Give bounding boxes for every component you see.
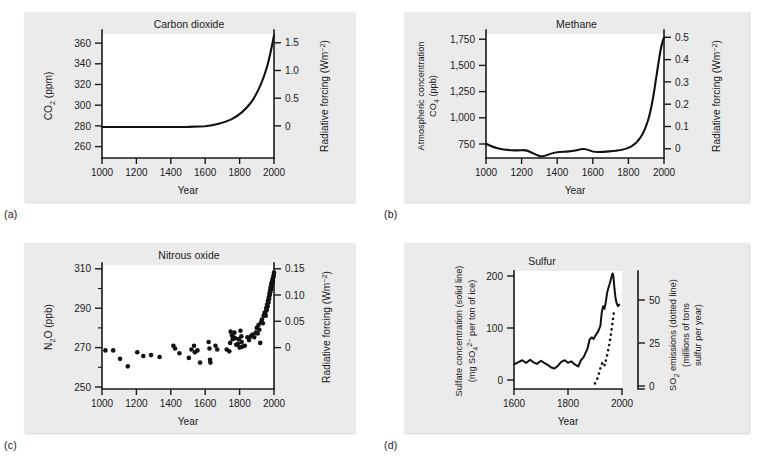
svg-text:1800: 1800 [617, 167, 640, 178]
panel-c-left-tick-labels: 250 270 290 310 [74, 263, 91, 392]
svg-text:Radiative forcing (Wm−2): Radiative forcing (Wm−2) [320, 271, 332, 383]
scatter-point [208, 360, 213, 365]
panel-a-right-ticks [274, 43, 281, 126]
svg-text:1200: 1200 [125, 398, 148, 409]
svg-text:0.5: 0.5 [285, 93, 299, 104]
svg-text:1600: 1600 [503, 398, 526, 409]
panel-b-y-left-title-line2: CO4 (ppb) [428, 75, 441, 117]
svg-text:CO4 (ppb): CO4 (ppb) [428, 75, 441, 117]
panel-b-left-ticks [479, 39, 486, 144]
svg-text:1600: 1600 [582, 167, 605, 178]
panel-c-y-right-title: Radiative forcing (Wm−2) [320, 271, 332, 383]
svg-text:(mg SO42− per ton of ice): (mg SO42− per ton of ice) [465, 280, 480, 383]
svg-text:25: 25 [649, 338, 661, 349]
scatter-point [206, 340, 211, 345]
svg-text:250: 250 [74, 382, 91, 393]
panel-c-tag: (c) [4, 439, 17, 451]
scatter-point [195, 348, 200, 353]
svg-text:0: 0 [285, 342, 291, 353]
panel-c-x-tick-labels: 1000 1200 1400 1600 1800 2000 [91, 398, 286, 409]
svg-text:340: 340 [74, 58, 91, 69]
svg-text:290: 290 [74, 303, 91, 314]
panel-b-x-axis-title: Year [565, 185, 586, 196]
panel-d-y-right-title-line2: (millions of tons [681, 303, 691, 367]
panel-d-y-right-title-line3: sulfur per year) [693, 304, 703, 366]
svg-text:0: 0 [649, 381, 655, 392]
panel-b-left-tick-labels: 750 1,000 1,250 1,500 1,750 [450, 34, 475, 150]
scatter-point [135, 350, 140, 355]
panel-b-x-ticks [486, 158, 664, 164]
svg-text:1000: 1000 [91, 167, 114, 178]
svg-text:2000: 2000 [611, 398, 634, 409]
panel-a-left-ticks [95, 43, 102, 147]
svg-text:2000: 2000 [263, 398, 286, 409]
svg-text:CO2 (ppm): CO2 (ppm) [43, 72, 57, 121]
scatter-point [198, 360, 203, 365]
svg-text:320: 320 [74, 79, 91, 90]
svg-text:(millions of tons: (millions of tons [681, 303, 691, 367]
panel-d-plot: 0 100 200 0 25 50 1600 [404, 243, 749, 433]
panel-b-right-ticks [664, 37, 671, 149]
svg-text:0: 0 [497, 375, 503, 386]
scatter-point [242, 343, 247, 348]
svg-text:1,500: 1,500 [450, 60, 475, 71]
panel-a-x-ticks [102, 158, 274, 164]
panel-d-tag: (d) [384, 439, 397, 451]
panel-c-x-axis-title: Year [178, 416, 199, 427]
svg-text:1,250: 1,250 [450, 86, 475, 97]
svg-text:0.2: 0.2 [675, 99, 689, 110]
svg-text:0: 0 [675, 143, 681, 154]
panel-d-right-tick-labels: 0 25 50 [649, 295, 661, 392]
svg-text:0.05: 0.05 [285, 316, 305, 327]
scatter-point [258, 341, 263, 346]
panel-a-x-tick-labels: 1000 1200 1400 1600 1800 2000 [91, 167, 286, 178]
svg-text:1.0: 1.0 [285, 65, 299, 76]
svg-text:0.1: 0.1 [675, 121, 689, 132]
svg-text:750: 750 [458, 139, 475, 150]
panel-d-left-ticks [507, 276, 514, 380]
scatter-point [261, 321, 266, 326]
scatter-point [238, 328, 243, 333]
scatter-point [239, 340, 244, 345]
scatter-point [207, 346, 212, 351]
scatter-point [192, 343, 197, 348]
svg-text:Atmospheric concentration: Atmospheric concentration [416, 42, 426, 151]
scatter-point [187, 356, 192, 361]
svg-text:2000: 2000 [263, 167, 286, 178]
panel-a-plot: 260 280 300 320 340 360 0 0.5 1.0 1.5 [24, 12, 354, 202]
scatter-point [141, 354, 146, 359]
panel-d-y-left-title-line1: Sulfate concentration (solid line) [454, 266, 464, 397]
svg-text:Radiative forcing (Wm−2): Radiative forcing (Wm−2) [710, 40, 722, 152]
panel-sulfur: Sulfur 0 100 200 [404, 243, 749, 433]
svg-text:200: 200 [486, 271, 503, 282]
svg-text:100: 100 [486, 323, 503, 334]
svg-text:0.15: 0.15 [285, 263, 305, 274]
panel-a-x-axis-title: Year [178, 185, 199, 196]
panel-c-left-ticks [95, 269, 102, 387]
svg-text:0.3: 0.3 [675, 77, 689, 88]
panel-d-y-right-title-line1: SO2 emissions (dotted line) [668, 279, 681, 391]
svg-text:1200: 1200 [510, 167, 533, 178]
panel-b-tag: (b) [384, 208, 397, 220]
svg-text:0.4: 0.4 [675, 54, 689, 65]
scatter-point [266, 297, 271, 302]
svg-text:Radiative forcing (Wm−2): Radiative forcing (Wm−2) [318, 40, 330, 152]
panel-d-x-axis-title: Year [558, 416, 579, 427]
svg-text:360: 360 [74, 38, 91, 49]
panel-a-plot-area [102, 34, 274, 158]
panel-a-y-right-title: Radiative forcing (Wm−2) [318, 40, 330, 152]
panel-b-plot-area [486, 34, 664, 158]
svg-text:50: 50 [649, 295, 661, 306]
svg-text:1800: 1800 [228, 167, 251, 178]
panel-b-plot: 750 1,000 1,250 1,500 1,750 0 0.1 0.2 0.… [404, 12, 749, 202]
panel-c-right-ticks [274, 269, 281, 348]
panel-c-plot: 250 270 290 310 0 0.05 0.10 0.15 [24, 243, 354, 433]
scatter-point [269, 285, 274, 290]
scatter-point [126, 364, 131, 369]
panel-d-right-axis [638, 271, 644, 389]
scatter-point [264, 305, 269, 310]
panel-b-right-tick-labels: 0 0.1 0.2 0.3 0.4 0.5 [675, 32, 689, 154]
panel-d-x-ticks [514, 389, 622, 395]
svg-text:SO2 emissions (dotted line): SO2 emissions (dotted line) [668, 279, 681, 391]
panel-methane: Methane 750 1,000 1,250 1,500 1,750 [404, 12, 749, 202]
